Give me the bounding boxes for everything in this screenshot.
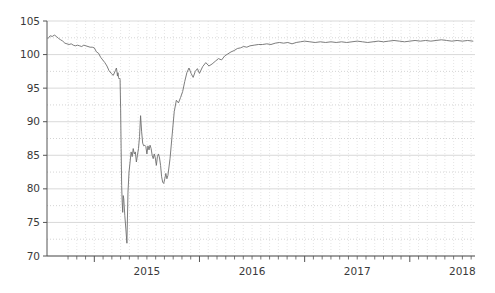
svg-text:2018: 2018 (449, 265, 476, 277)
svg-text:75: 75 (27, 216, 40, 228)
y-axis-ticks (43, 21, 47, 256)
svg-text:85: 85 (27, 149, 40, 161)
line-chart: 707580859095100105 2015201620172018 (0, 0, 495, 293)
svg-text:105: 105 (20, 15, 40, 27)
svg-text:100: 100 (20, 48, 40, 60)
svg-text:2017: 2017 (344, 265, 371, 277)
svg-text:70: 70 (27, 250, 40, 262)
svg-text:2015: 2015 (134, 265, 161, 277)
x-axis-tick-labels: 2015201620172018 (134, 265, 476, 277)
svg-text:80: 80 (27, 182, 40, 194)
svg-text:90: 90 (27, 115, 40, 127)
y-axis-tick-labels: 707580859095100105 (20, 15, 40, 262)
chart-canvas: 707580859095100105 2015201620172018 (0, 0, 495, 293)
svg-text:95: 95 (27, 82, 40, 94)
x-axis-ticks (68, 256, 471, 262)
svg-text:2016: 2016 (239, 265, 266, 277)
